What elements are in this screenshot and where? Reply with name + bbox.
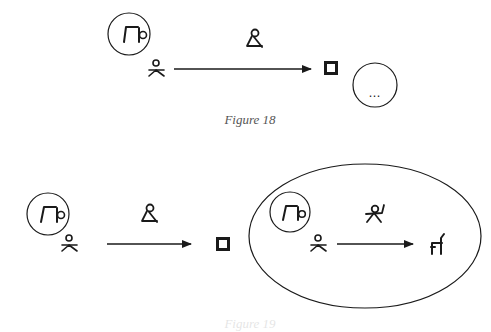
double-square-icon	[324, 61, 338, 75]
chair-animal-icon	[431, 234, 444, 254]
source-circle	[108, 13, 150, 55]
seated-person-icon	[62, 235, 77, 251]
seated-person-icon	[311, 235, 326, 251]
bent-over-figure-icon	[41, 207, 65, 222]
figure-18	[108, 13, 397, 107]
seated-person-icon	[149, 60, 164, 76]
kneeling-figure-icon	[142, 205, 157, 223]
figure-19-caption: Figure 19	[224, 316, 275, 332]
ellipsis-content: …	[369, 86, 382, 100]
bent-over-figure-icon	[283, 206, 305, 220]
embedded-event-ellipse	[249, 164, 481, 308]
figure-18-caption: Figure 18	[224, 112, 275, 128]
result-circle	[353, 63, 397, 107]
bent-over-figure-icon	[124, 27, 147, 42]
jumping-figure-icon	[366, 205, 384, 222]
kneeling-figure-icon	[247, 30, 262, 48]
source-circle	[270, 192, 310, 232]
source-circle	[27, 193, 69, 235]
figure-19	[27, 164, 481, 308]
double-square-icon	[216, 237, 230, 251]
